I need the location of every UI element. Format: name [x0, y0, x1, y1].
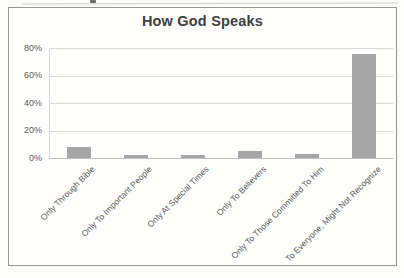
- x-axis-label: Only To Believers: [214, 164, 268, 218]
- bar-slot: [107, 48, 164, 158]
- bar: [238, 151, 262, 158]
- y-tick-label: 40%: [24, 98, 42, 109]
- chart-frame: How God Speaks 0%20%40%60%80% Only Throu…: [8, 7, 397, 266]
- scan-artifact-mark: [90, 0, 96, 3]
- bar: [124, 155, 148, 158]
- y-tick-label: 80%: [24, 43, 42, 54]
- plot-area: [49, 48, 393, 159]
- y-axis-labels: 0%20%40%60%80%: [9, 8, 45, 265]
- bar-slot: [279, 48, 336, 158]
- x-axis-label: Only To Those Committed To Him: [229, 164, 326, 261]
- x-axis-labels: Only Through BibleOnly To Important Peop…: [49, 159, 392, 266]
- bar-slot: [164, 48, 221, 158]
- bar: [352, 54, 376, 159]
- y-tick-label: 0%: [29, 153, 42, 164]
- bar-slot: [222, 48, 279, 158]
- bars: [50, 48, 393, 158]
- bar: [295, 154, 319, 158]
- y-tick-label: 60%: [24, 70, 42, 81]
- bar-slot: [336, 48, 393, 158]
- y-tick-label: 20%: [24, 125, 42, 136]
- x-axis-label: To Everyone, Might Not Recognize: [283, 164, 383, 264]
- bar: [181, 155, 205, 158]
- scan-artifact-line: [22, 3, 398, 5]
- x-axis-label: Only Through Bible: [38, 164, 96, 222]
- bar: [67, 147, 91, 158]
- x-axis-label: Only At Special Times: [145, 164, 211, 230]
- chart-title: How God Speaks: [9, 13, 396, 29]
- bar-slot: [50, 48, 107, 158]
